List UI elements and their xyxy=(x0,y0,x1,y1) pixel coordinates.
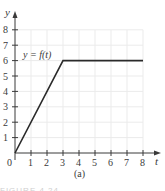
x-tick-label: 0 xyxy=(7,157,12,168)
x-tick-label: 5 xyxy=(92,157,97,168)
y-tick-label: 7 xyxy=(3,40,8,51)
x-tick-label: 2 xyxy=(44,157,49,168)
x-tick-label: 3 xyxy=(60,157,65,168)
subfigure-caption: (a) xyxy=(74,168,85,180)
y-axis-arrow-icon xyxy=(13,11,18,18)
figure-caption: FIGURE 4.24 xyxy=(0,186,59,191)
y-tick-label: 2 xyxy=(3,117,8,128)
chart-canvas: 01234567812345678 y t y = f(t) (a) FIGUR… xyxy=(0,0,165,191)
y-axis-label: y xyxy=(4,6,10,18)
x-tick-label: 4 xyxy=(76,157,81,168)
tick-labels: 01234567812345678 xyxy=(3,24,145,168)
y-tick-label: 6 xyxy=(3,55,8,66)
y-tick-label: 8 xyxy=(3,24,8,35)
x-tick-label: 8 xyxy=(140,157,145,168)
function-label: y = f(t) xyxy=(22,49,52,61)
x-tick-label: 7 xyxy=(124,157,129,168)
y-tick-label: 4 xyxy=(3,86,8,97)
y-tick-label: 3 xyxy=(3,101,8,112)
y-tick-label: 5 xyxy=(3,71,8,82)
x-axis-label: t xyxy=(155,155,159,167)
x-tick-label: 1 xyxy=(28,157,33,168)
y-tick-label: 1 xyxy=(3,132,8,143)
x-tick-label: 6 xyxy=(108,157,113,168)
